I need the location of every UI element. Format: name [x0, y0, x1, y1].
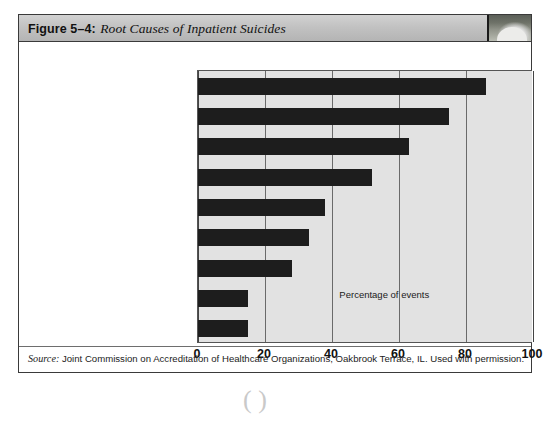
- page-artifact-mark: ( ): [243, 385, 289, 415]
- bar: [198, 229, 309, 246]
- plot-area: Percentage of events: [197, 70, 532, 343]
- figure-caption: Figure 5–4: Root Causes of Inpatient Sui…: [28, 15, 286, 41]
- bar: [198, 138, 409, 155]
- plot-inner: Percentage of events: [198, 71, 532, 342]
- gridline-100: [533, 71, 534, 342]
- gridline-80: [466, 71, 467, 342]
- bar: [198, 199, 325, 216]
- figure-header: Figure 5–4: Root Causes of Inpatient Sui…: [19, 15, 531, 42]
- source-prefix: Source:: [28, 353, 59, 364]
- figure-container: Figure 5–4: Root Causes of Inpatient Sui…: [18, 14, 532, 373]
- bar: [198, 169, 372, 186]
- bar: [198, 108, 449, 125]
- x-axis-label: Percentage of events: [339, 289, 429, 300]
- bar: [198, 290, 248, 307]
- figure-footer: Source: Joint Commission on Accreditatio…: [19, 346, 531, 372]
- figure-number: Figure 5–4:: [28, 22, 96, 36]
- chart-area: Physical environmentPatient assessmentOr…: [19, 42, 531, 346]
- bar: [198, 78, 486, 95]
- source-note: Source: Joint Commission on Accreditatio…: [28, 353, 524, 364]
- bar: [198, 320, 248, 337]
- figure-title: Root Causes of Inpatient Suicides: [100, 21, 286, 36]
- bar: [198, 260, 292, 277]
- source-text: Joint Commission on Accreditation of Hea…: [59, 353, 524, 364]
- figure-thumbnail-image: [487, 15, 531, 41]
